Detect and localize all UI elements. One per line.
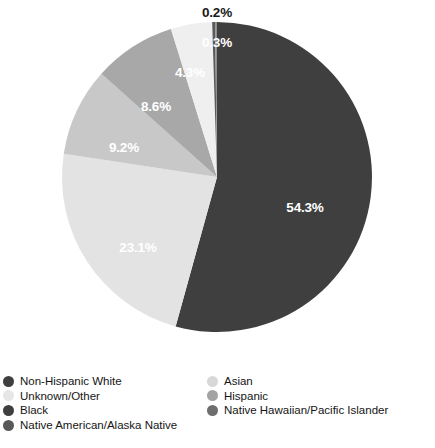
legend-item-hispanic[interactable]: Hispanic xyxy=(207,389,388,404)
legend-item-native-hawaiian[interactable]: Native Hawaiian/Pacific Islander xyxy=(207,403,388,418)
legend-column-right: AsianHispanicNative Hawaiian/Pacific Isl… xyxy=(207,374,388,418)
legend-swatch-icon xyxy=(3,390,14,401)
chart-legend: Non-Hispanic WhiteUnknown/OtherBlackNati… xyxy=(0,374,435,448)
label-non-hispanic-white: 54.3% xyxy=(286,200,323,215)
legend-label: Non-Hispanic White xyxy=(20,374,122,389)
label-unknown-other: 4.3% xyxy=(175,65,205,80)
pie-chart-svg xyxy=(0,0,435,372)
legend-label: Black xyxy=(20,403,48,418)
pie-chart-figure: 54.3%23.1%9.2%8.6%4.3%0.3%0.2% xyxy=(0,0,435,372)
label-asian: 8.6% xyxy=(141,99,171,114)
legend-column-left: Non-Hispanic WhiteUnknown/OtherBlackNati… xyxy=(3,374,177,432)
legend-label: Unknown/Other xyxy=(20,389,100,404)
legend-swatch-icon xyxy=(207,376,218,387)
legend-item-unknown-other[interactable]: Unknown/Other xyxy=(3,389,177,404)
legend-label: Native Hawaiian/Pacific Islander xyxy=(224,403,388,418)
legend-item-asian[interactable]: Asian xyxy=(207,374,388,389)
label-black: 23.1% xyxy=(119,240,156,255)
legend-item-black[interactable]: Black xyxy=(3,403,177,418)
label-hispanic: 9.2% xyxy=(109,140,139,155)
legend-swatch-icon xyxy=(3,376,14,387)
legend-swatch-icon xyxy=(207,405,218,416)
legend-label: Hispanic xyxy=(224,389,268,404)
label-native-hawaiian: 0.2% xyxy=(202,5,232,20)
label-native-american: 0.3% xyxy=(202,35,232,50)
legend-swatch-icon xyxy=(3,405,14,416)
legend-label: Native American/Alaska Native xyxy=(20,418,177,433)
legend-item-non-hispanic-white[interactable]: Non-Hispanic White xyxy=(3,374,177,389)
legend-label: Asian xyxy=(224,374,253,389)
legend-swatch-icon xyxy=(3,420,14,431)
legend-swatch-icon xyxy=(207,390,218,401)
legend-item-native-american[interactable]: Native American/Alaska Native xyxy=(3,418,177,433)
